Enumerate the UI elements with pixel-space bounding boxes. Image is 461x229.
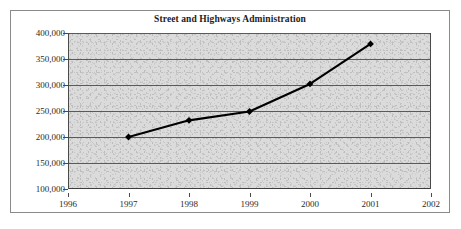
y-tick-label: 350,000: [36, 54, 65, 64]
x-tick-label: 2002: [422, 199, 440, 209]
x-tick-mark: [371, 193, 372, 197]
chart-title: Street and Highways Administration: [11, 14, 449, 24]
y-tick-label: 250,000: [36, 106, 65, 116]
x-tick-mark: [129, 193, 130, 197]
x-axis: 1996199719981999200020012002: [68, 193, 431, 211]
y-axis: 400,000350,000300,000250,000200,000150,0…: [11, 33, 65, 189]
y-tick-mark: [63, 189, 68, 190]
y-tick-label: 150,000: [36, 158, 65, 168]
data-point-marker: [186, 117, 193, 124]
x-tick-label: 1999: [241, 199, 259, 209]
x-tick-label: 2001: [362, 199, 380, 209]
data-point-marker: [246, 108, 253, 115]
series-polyline: [129, 44, 371, 137]
x-tick-label: 1996: [59, 199, 77, 209]
y-tick-label: 200,000: [36, 132, 65, 142]
x-tick-mark: [68, 193, 69, 197]
chart-figure: Street and Highways Administration 400,0…: [0, 0, 461, 229]
data-point-marker: [125, 134, 132, 141]
y-tick-label: 300,000: [36, 80, 65, 90]
x-tick-mark: [250, 193, 251, 197]
x-tick-label: 1998: [180, 199, 198, 209]
data-series-line: [68, 33, 431, 189]
chart-frame: Street and Highways Administration 400,0…: [10, 10, 450, 213]
series-markers: [125, 41, 374, 141]
y-tick-label: 100,000: [36, 184, 65, 194]
x-tick-label: 1997: [120, 199, 138, 209]
y-tick-label: 400,000: [36, 28, 65, 38]
x-tick-label: 2000: [301, 199, 319, 209]
x-tick-mark: [189, 193, 190, 197]
plot-area: [68, 33, 431, 189]
x-tick-mark: [431, 193, 432, 197]
x-tick-mark: [310, 193, 311, 197]
